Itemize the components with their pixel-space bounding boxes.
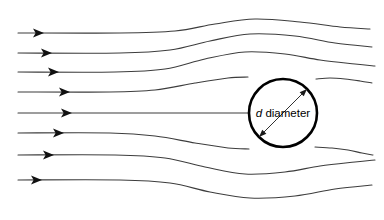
- flow-diagram-canvas: d diameter: [0, 0, 384, 220]
- flow-diagram: d diameter: [0, 0, 384, 220]
- diameter-word: diameter: [265, 107, 310, 119]
- diameter-label: d diameter: [256, 107, 311, 119]
